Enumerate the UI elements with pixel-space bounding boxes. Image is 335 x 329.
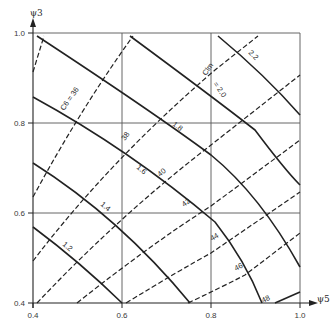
curve-clm-corner xyxy=(275,292,300,303)
curve-c6-42 xyxy=(37,75,300,303)
curve-c6-40 xyxy=(33,36,258,261)
y-tick-1.0: 1.0 xyxy=(14,29,26,38)
curve-c6-36 xyxy=(33,36,44,72)
label-clm-2.0: = 2.0 xyxy=(211,80,228,99)
curve-clm-1.8 xyxy=(37,36,300,267)
label-clm-1.8: 1.8 xyxy=(171,119,185,133)
label-clm-2.2: 2.2 xyxy=(247,48,261,62)
x-tick-0.8: 0.8 xyxy=(205,311,217,320)
y-axis-arrow-icon xyxy=(30,18,36,27)
curve-clm-2.0 xyxy=(130,36,300,185)
curve-clm-1.2 xyxy=(33,227,122,303)
x-tick-0.6: 0.6 xyxy=(116,311,128,320)
label-c6-36: C6 = 36 xyxy=(58,85,81,112)
label-clm-2.0-prefix: Clm xyxy=(200,61,215,77)
y-tick-0.8: 0.8 xyxy=(14,119,26,128)
x-tick-1.0: 1.0 xyxy=(294,311,306,320)
label-c6-42: 42 xyxy=(180,196,192,208)
curve-c6-48 xyxy=(188,233,300,303)
label-c6-38: 38 xyxy=(119,130,131,142)
label-clm-1.4: 1.4 xyxy=(99,200,113,214)
curve-clm-2.2 xyxy=(218,36,300,115)
nomogram-chart: 1.0 0.8 0.6 0.4 0.4 0.6 0.8 1.0 ψ3 ψ5 C6… xyxy=(0,0,335,329)
axes xyxy=(28,18,318,308)
curve-c6-46 xyxy=(126,192,300,303)
c6-curves xyxy=(33,36,300,303)
y-tick-0.4: 0.4 xyxy=(14,299,26,308)
curve-clm-1.6 xyxy=(33,97,262,303)
label-c6-44: 44 xyxy=(209,231,221,243)
x-tick-0.4: 0.4 xyxy=(27,311,39,320)
x-axis-title: ψ5 xyxy=(317,294,330,304)
label-clm-1.6: 1.6 xyxy=(135,163,149,177)
y-tick-0.6: 0.6 xyxy=(14,209,26,218)
y-axis-title: ψ3 xyxy=(30,8,43,18)
